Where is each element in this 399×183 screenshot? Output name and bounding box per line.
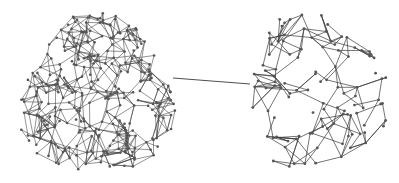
node	[104, 62, 107, 65]
node	[384, 119, 387, 122]
node	[46, 124, 49, 127]
node	[253, 73, 256, 76]
edge	[64, 77, 82, 85]
node	[48, 85, 51, 88]
node	[287, 140, 290, 143]
node	[98, 128, 101, 131]
node	[140, 42, 143, 45]
node	[268, 32, 271, 35]
node	[148, 68, 151, 71]
node	[97, 53, 100, 56]
node	[78, 50, 81, 53]
node	[98, 134, 101, 137]
node	[109, 23, 112, 26]
node	[83, 66, 86, 69]
node	[347, 135, 350, 138]
node	[363, 124, 366, 127]
node	[74, 91, 77, 94]
edge	[316, 157, 342, 163]
edge	[107, 112, 117, 133]
edge	[328, 25, 342, 37]
edge	[366, 121, 386, 143]
node	[39, 137, 42, 140]
node	[89, 60, 92, 63]
node	[35, 143, 38, 146]
node	[155, 101, 158, 104]
node	[312, 111, 315, 114]
node	[67, 31, 70, 34]
node	[278, 84, 281, 87]
node	[75, 64, 78, 67]
node	[102, 19, 105, 22]
node	[347, 55, 350, 58]
edge	[67, 123, 85, 128]
node	[298, 135, 301, 138]
edge	[355, 48, 370, 57]
node	[60, 29, 63, 32]
node	[124, 61, 127, 64]
node	[167, 85, 170, 88]
node	[148, 74, 151, 77]
node	[36, 90, 39, 93]
node	[78, 110, 81, 113]
node	[293, 162, 296, 165]
node	[329, 40, 332, 43]
node	[264, 69, 267, 72]
edge	[80, 130, 87, 152]
node	[360, 49, 363, 52]
node	[342, 113, 345, 116]
node	[81, 94, 84, 97]
node	[309, 132, 312, 135]
node	[50, 140, 53, 143]
node	[57, 91, 60, 94]
node	[125, 129, 128, 132]
node	[79, 44, 82, 47]
node	[288, 53, 291, 56]
node	[95, 127, 98, 130]
edge	[347, 37, 349, 56]
edge	[30, 82, 42, 87]
node	[68, 157, 71, 160]
node	[29, 86, 32, 89]
node	[89, 73, 92, 76]
node	[154, 114, 157, 117]
node	[379, 103, 382, 106]
node	[147, 104, 150, 107]
node	[283, 34, 286, 37]
node	[100, 155, 103, 158]
edge	[321, 15, 326, 31]
edge	[127, 30, 141, 44]
node	[58, 120, 61, 123]
edge	[29, 114, 33, 136]
node	[64, 149, 67, 152]
edge	[77, 32, 81, 44]
node	[68, 101, 71, 104]
edge	[324, 109, 334, 123]
node	[152, 103, 155, 106]
node	[54, 143, 57, 146]
node	[41, 116, 44, 119]
node	[273, 75, 276, 78]
node	[274, 81, 277, 84]
node	[27, 134, 30, 137]
edge	[305, 148, 317, 164]
node	[111, 43, 114, 46]
edge	[253, 87, 255, 108]
node	[170, 99, 173, 102]
node	[113, 35, 116, 38]
node	[84, 127, 87, 130]
node	[60, 68, 63, 71]
node	[67, 87, 70, 90]
node	[128, 39, 131, 42]
node	[90, 150, 93, 153]
node	[123, 97, 126, 100]
edge	[383, 104, 386, 121]
edge	[316, 72, 327, 80]
node	[303, 27, 306, 30]
node	[381, 77, 384, 80]
node	[54, 106, 57, 109]
node	[123, 122, 126, 125]
node	[301, 14, 304, 17]
edge	[297, 90, 324, 103]
node	[277, 40, 280, 43]
